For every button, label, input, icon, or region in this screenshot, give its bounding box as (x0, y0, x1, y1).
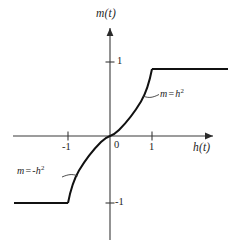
lower-annotation-exponent: 2 (41, 164, 45, 171)
y-tick-label-neg1: -1 (115, 197, 124, 208)
plot-canvas (0, 0, 234, 249)
upper-branch-annotation: m=h2 (160, 89, 184, 99)
y-axis-label: m(t) (96, 8, 116, 20)
lower-branch-annotation: m=-h2 (17, 166, 45, 176)
y-tick-label-pos1: 1 (117, 56, 122, 67)
x-tick-label-pos1: 1 (149, 142, 154, 153)
y-axis-arrow-icon (107, 28, 114, 36)
upper-annotation-exponent: 2 (180, 87, 184, 94)
x-axis-arrow-icon (205, 133, 213, 140)
figure-root: m(t) h(t) -1 1 1 -1 0 m=h2 m=-h2 (0, 0, 234, 249)
x-axis-label: h(t) (193, 142, 210, 154)
x-tick-label-neg1: -1 (62, 142, 71, 153)
origin-label: 0 (114, 140, 119, 151)
